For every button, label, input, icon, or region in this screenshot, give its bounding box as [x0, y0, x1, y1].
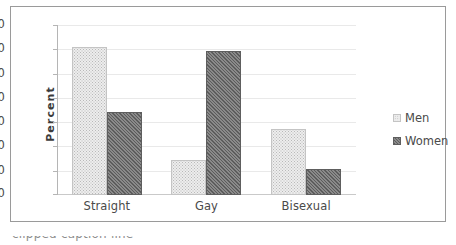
- bar-group-gay: [171, 25, 241, 195]
- caption-text: clipped caption line: [12, 236, 133, 241]
- y-tick-label: 0: [0, 188, 5, 200]
- y-tick-label: 70: [0, 19, 5, 31]
- bar-men-bisexual[interactable]: [271, 129, 306, 195]
- x-axis-tick-labels: Straight Gay Bisexual: [57, 199, 356, 213]
- legend-item-men[interactable]: Men: [393, 111, 448, 125]
- y-tick-label: 60: [0, 43, 5, 55]
- legend-item-women[interactable]: Women: [393, 134, 448, 148]
- y-tick-label: 20: [0, 140, 5, 152]
- legend-label-women: Women: [405, 134, 448, 148]
- bar-women-bisexual[interactable]: [306, 169, 341, 195]
- y-tick-label: 50: [0, 68, 5, 80]
- legend-swatch-men-icon: [393, 114, 401, 122]
- figure: Percent 70: [0, 0, 456, 245]
- caption-clipped: clipped caption line: [12, 236, 444, 245]
- y-tick-label: 10: [0, 165, 5, 177]
- plot-area: 70 60 50 40 30 20 10 0: [57, 25, 356, 195]
- legend-swatch-women-icon: [393, 137, 401, 145]
- bar-groups: [57, 25, 356, 195]
- bar-group-straight: [72, 25, 142, 195]
- bar-women-gay[interactable]: [206, 51, 241, 195]
- bar-group-bisexual: [271, 25, 341, 195]
- bar-men-straight[interactable]: [72, 47, 107, 195]
- y-tick-label: 30: [0, 116, 5, 128]
- legend: Men Women: [393, 111, 448, 148]
- x-tick-label-straight: Straight: [62, 199, 152, 213]
- chart-frame: Percent 70: [10, 6, 446, 222]
- y-axis-title: Percent: [44, 86, 57, 142]
- y-tick-label: 40: [0, 92, 5, 104]
- x-tick-label-bisexual: Bisexual: [261, 199, 351, 213]
- legend-label-men: Men: [405, 111, 429, 125]
- x-tick-label-gay: Gay: [161, 199, 251, 213]
- bar-women-straight[interactable]: [107, 112, 142, 195]
- bar-men-gay[interactable]: [171, 160, 206, 195]
